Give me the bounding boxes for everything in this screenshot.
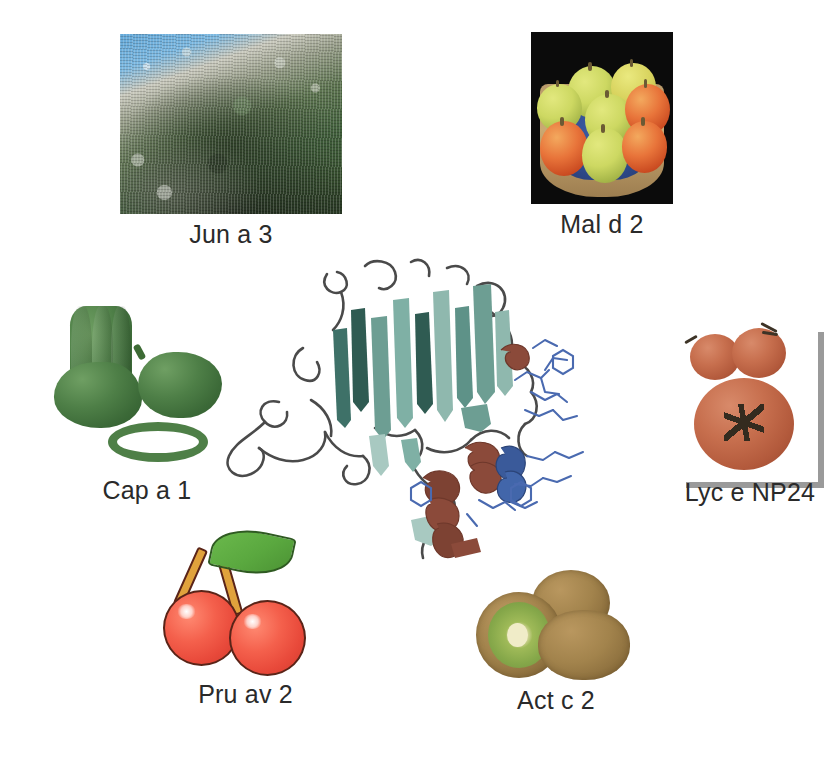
label-act-c-2: Act c 2 [476,686,636,715]
pepper-stem [133,343,147,360]
allergen-figure: Jun a 3 Mal d 2 [0,0,833,771]
label-lyc-e-np24: Lyc e NP24 [676,478,824,507]
bell-pepper-left [54,362,142,428]
apple-red-3 [622,121,667,173]
photo-grain-overlay [120,34,342,214]
tomato-calyx-star [724,404,764,441]
panel-juniper: Jun a 3 [120,34,342,214]
juniper-tree-photo [120,34,342,214]
apple-green-4 [582,128,627,183]
panel-apple: Mal d 2 [531,32,673,204]
bell-pepper-right [138,352,222,418]
label-cap-a-1: Cap a 1 [52,476,242,505]
beta-sheet-strands [333,284,513,546]
apples-basket-photo [531,32,673,204]
label-jun-a-3: Jun a 3 [120,220,342,249]
apple-red-2 [540,121,588,176]
panel-tomato: Lyc e NP24 [676,322,824,488]
protein-ribbon-diagram [215,252,625,642]
label-mal-d-2: Mal d 2 [531,210,673,239]
tomato-large [694,378,794,470]
bell-pepper-slice [108,422,208,462]
panel-pepper: Cap a 1 [52,300,242,475]
label-pru-av-2: Pru av 2 [163,680,328,709]
protein-structure-svg [215,252,625,642]
tomato-small-right [732,328,786,378]
